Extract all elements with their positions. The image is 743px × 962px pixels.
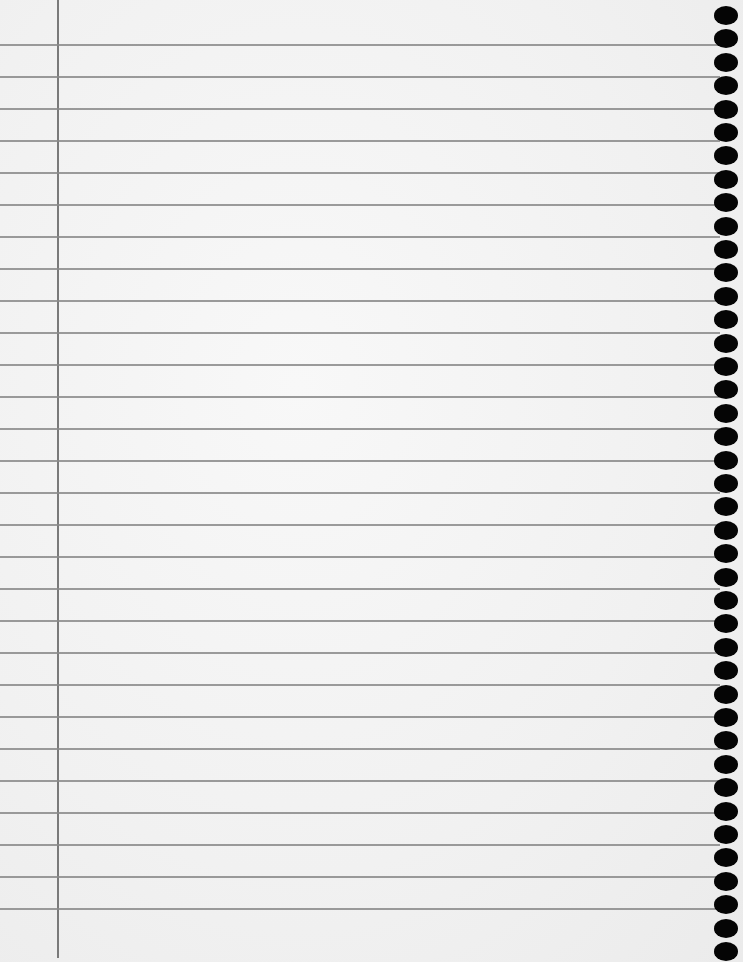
binder-hole bbox=[714, 170, 738, 189]
ruled-line bbox=[0, 748, 720, 750]
ruled-line bbox=[0, 524, 720, 526]
binder-hole bbox=[714, 6, 738, 25]
ruled-line bbox=[0, 268, 720, 270]
binder-hole bbox=[714, 591, 738, 610]
binder-hole bbox=[714, 825, 738, 844]
ruled-line bbox=[0, 236, 720, 238]
binder-hole bbox=[714, 193, 738, 212]
binder-hole bbox=[714, 263, 738, 282]
ruled-line bbox=[0, 908, 720, 910]
binder-hole bbox=[714, 685, 738, 704]
binder-hole bbox=[714, 29, 738, 48]
binder-hole bbox=[714, 848, 738, 867]
binder-hole bbox=[714, 451, 738, 470]
binder-hole bbox=[714, 310, 738, 329]
binder-hole bbox=[714, 521, 738, 540]
binder-hole bbox=[714, 614, 738, 633]
binder-hole bbox=[714, 474, 738, 493]
ruled-line bbox=[0, 44, 720, 46]
binder-hole bbox=[714, 895, 738, 914]
binder-hole bbox=[714, 287, 738, 306]
binder-hole bbox=[714, 380, 738, 399]
ruled-line bbox=[0, 780, 720, 782]
binder-hole bbox=[714, 802, 738, 821]
binder-hole bbox=[714, 123, 738, 142]
binder-hole bbox=[714, 661, 738, 680]
binder-hole bbox=[714, 919, 738, 938]
notebook-page bbox=[0, 0, 743, 962]
binder-hole bbox=[714, 708, 738, 727]
binder-hole bbox=[714, 731, 738, 750]
binder-hole bbox=[714, 755, 738, 774]
ruled-line bbox=[0, 652, 720, 654]
ruled-line bbox=[0, 172, 720, 174]
ruled-line bbox=[0, 812, 720, 814]
ruled-line bbox=[0, 620, 720, 622]
ruled-line bbox=[0, 492, 720, 494]
binder-hole bbox=[714, 146, 738, 165]
ruled-line bbox=[0, 428, 720, 430]
ruled-line bbox=[0, 588, 720, 590]
ruled-line bbox=[0, 396, 720, 398]
binder-hole bbox=[714, 334, 738, 353]
binder-hole bbox=[714, 404, 738, 423]
binder-hole bbox=[714, 100, 738, 119]
binder-hole bbox=[714, 240, 738, 259]
binder-hole bbox=[714, 53, 738, 72]
binder-hole bbox=[714, 544, 738, 563]
ruled-line bbox=[0, 844, 720, 846]
ruled-line bbox=[0, 716, 720, 718]
ruled-line bbox=[0, 140, 720, 142]
binder-hole bbox=[714, 357, 738, 376]
ruled-line bbox=[0, 204, 720, 206]
ruled-line bbox=[0, 76, 720, 78]
ruled-line bbox=[0, 364, 720, 366]
binder-hole bbox=[714, 638, 738, 657]
binder-hole bbox=[714, 778, 738, 797]
binder-hole bbox=[714, 942, 738, 961]
ruled-line bbox=[0, 684, 720, 686]
ruled-line bbox=[0, 460, 720, 462]
binder-hole bbox=[714, 872, 738, 891]
ruled-line bbox=[0, 300, 720, 302]
binder-hole bbox=[714, 427, 738, 446]
binder-hole bbox=[714, 497, 738, 516]
ruled-line bbox=[0, 108, 720, 110]
binder-hole bbox=[714, 568, 738, 587]
ruled-line bbox=[0, 876, 720, 878]
ruled-line bbox=[0, 556, 720, 558]
ruled-line bbox=[0, 332, 720, 334]
margin-line bbox=[57, 0, 59, 958]
binder-hole bbox=[714, 217, 738, 236]
binder-hole bbox=[714, 76, 738, 95]
